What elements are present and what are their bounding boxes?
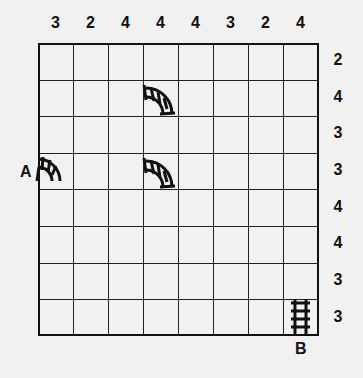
start-marker-a: A	[20, 163, 32, 181]
column-clue-1: 3	[38, 14, 73, 32]
row-clue-7: 3	[328, 271, 348, 289]
cell-r2-c4[interactable]	[143, 80, 178, 117]
grid-line	[40, 226, 317, 227]
column-clue-2: 2	[73, 14, 108, 32]
grid-line	[40, 263, 317, 264]
cell-r4-c1[interactable]	[38, 153, 73, 190]
column-clue-4: 4	[143, 14, 178, 32]
cell-r4-c4[interactable]	[143, 153, 178, 190]
puzzle-grid[interactable]	[38, 43, 319, 336]
grid-line	[40, 80, 317, 81]
cell-r8-c8[interactable]	[283, 299, 318, 336]
column-clue-6: 3	[213, 14, 248, 32]
row-clue-3: 3	[328, 124, 348, 142]
grid-line	[40, 116, 317, 117]
row-clue-2: 4	[328, 88, 348, 106]
row-clue-8: 3	[328, 308, 348, 326]
row-clue-4: 3	[328, 161, 348, 179]
column-clue-7: 2	[248, 14, 283, 32]
column-clue-5: 4	[178, 14, 213, 32]
grid-line	[40, 299, 317, 300]
row-clue-5: 4	[328, 198, 348, 216]
end-marker-b: B	[295, 340, 307, 358]
grid-line	[40, 189, 317, 190]
column-clue-8: 4	[283, 14, 318, 32]
grid-line	[40, 153, 317, 154]
column-clue-3: 4	[108, 14, 143, 32]
row-clue-6: 4	[328, 234, 348, 252]
row-clue-1: 2	[328, 51, 348, 69]
